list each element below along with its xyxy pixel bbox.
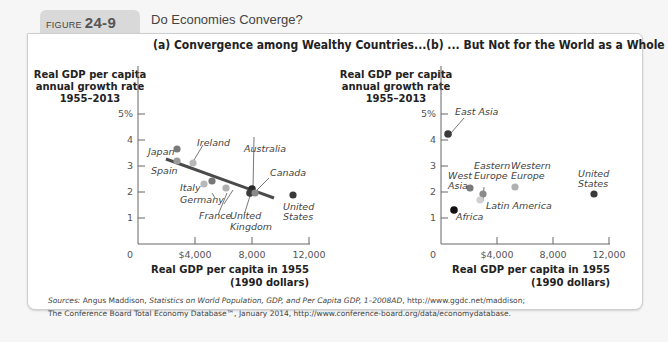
svg-text:Spain: Spain xyxy=(151,165,178,176)
svg-text:2: 2 xyxy=(127,186,133,197)
chart-a-title: (a) Convergence among Wealthy Countries.… xyxy=(153,38,426,52)
svg-text:France: France xyxy=(199,210,231,221)
chart-b-y-ticks xyxy=(441,114,448,218)
chart-b-xlabel: Real GDP per capita in 1955 (1990 dollar… xyxy=(452,264,610,288)
svg-text:1955–2013: 1955–2013 xyxy=(366,93,427,104)
svg-text:Ireland: Ireland xyxy=(197,137,231,148)
svg-text:Latin America: Latin America xyxy=(486,200,552,211)
point-western-europe xyxy=(511,183,518,190)
chart-a-xlabel: Real GDP per capita in 1955 (1990 dollar… xyxy=(151,264,309,288)
chart-a-x-tick-labels: 0 $4,000 8,000 12,000 xyxy=(127,249,326,260)
label-united-kingdom-1: United xyxy=(230,210,262,221)
svg-text:8,000: 8,000 xyxy=(539,249,566,260)
svg-text:12,000: 12,000 xyxy=(592,249,625,260)
svg-text:Italy: Italy xyxy=(180,182,201,193)
svg-text:Real GDP per capita: Real GDP per capita xyxy=(340,69,453,80)
svg-text:8,000: 8,000 xyxy=(238,249,265,260)
chart-b-point-labels: East Asia West Asia Eastern Europe Latin… xyxy=(447,106,610,222)
label-united-states-a-2: States xyxy=(283,211,313,222)
svg-text:Australia: Australia xyxy=(243,143,286,154)
point-ireland xyxy=(189,159,196,166)
chart-b-title: (b) ... But Not for the World as a Whole xyxy=(426,38,665,52)
svg-text:Real GDP per capita: Real GDP per capita xyxy=(34,69,147,80)
charts-canvas: (a) Convergence among Wealthy Countries.… xyxy=(0,0,668,342)
svg-text:(1990 dollars): (1990 dollars) xyxy=(531,277,610,288)
chart-b-x-ticks xyxy=(497,237,609,244)
label-eastern-europe-2: Europe xyxy=(474,170,508,181)
point-latin-america xyxy=(476,196,483,203)
chart-a-point-labels: Japan Spain Ireland Italy Germany France… xyxy=(146,137,315,232)
svg-text:(1990 dollars): (1990 dollars) xyxy=(230,277,309,288)
chart-b: (b) ... But Not for the World as a Whole… xyxy=(340,38,665,288)
label-west-asia-2: Asia xyxy=(447,180,468,191)
svg-text:5%: 5% xyxy=(118,108,133,119)
svg-text:annual growth rate: annual growth rate xyxy=(36,81,145,92)
chart-a-ylabel: Real GDP per capita annual growth rate 1… xyxy=(34,69,147,104)
svg-text:$4,000: $4,000 xyxy=(178,249,211,260)
point-canada xyxy=(251,189,258,196)
svg-text:East Asia: East Asia xyxy=(455,106,499,117)
svg-text:4: 4 xyxy=(127,134,133,145)
chart-b-ylabel: Real GDP per capita annual growth rate 1… xyxy=(340,69,453,104)
label-western-europe-2: Europe xyxy=(511,170,545,181)
svg-text:4: 4 xyxy=(430,134,436,145)
sources-line-1: Sources: Angus Maddison, Statistics on W… xyxy=(48,294,638,307)
svg-text:2: 2 xyxy=(430,186,436,197)
svg-text:12,000: 12,000 xyxy=(292,249,325,260)
svg-text:$4,000: $4,000 xyxy=(480,249,513,260)
point-united-states-a xyxy=(289,191,296,198)
sources-line-2: The Conference Board Total Economy Datab… xyxy=(48,307,638,320)
point-spain xyxy=(173,157,180,164)
point-italy xyxy=(200,180,207,187)
svg-text:Real GDP per capita in 1955: Real GDP per capita in 1955 xyxy=(151,264,309,275)
svg-text:1955–2013: 1955–2013 xyxy=(60,93,121,104)
point-germany xyxy=(208,177,215,184)
chart-a-y-tick-labels: 5% 4 3 2 1 xyxy=(118,108,133,223)
point-france xyxy=(222,184,229,191)
svg-text:Africa: Africa xyxy=(455,211,484,222)
svg-text:0: 0 xyxy=(430,249,436,260)
sources-note: Sources: Angus Maddison, Statistics on W… xyxy=(48,294,638,320)
svg-text:Real GDP per capita in 1955: Real GDP per capita in 1955 xyxy=(452,264,610,275)
svg-text:0: 0 xyxy=(127,249,133,260)
svg-text:Germany: Germany xyxy=(180,194,224,205)
svg-text:Japan: Japan xyxy=(146,146,175,157)
chart-b-y-tick-labels: 5% 4 3 2 1 xyxy=(421,108,436,223)
chart-a-x-ticks xyxy=(195,237,309,244)
chart-b-x-tick-labels: 0 $4,000 8,000 12,000 xyxy=(430,249,626,260)
svg-text:5%: 5% xyxy=(421,108,436,119)
svg-text:3: 3 xyxy=(430,160,436,171)
point-east-asia xyxy=(444,130,452,138)
point-united-states-b xyxy=(590,190,597,197)
svg-text:Canada: Canada xyxy=(270,167,306,178)
label-united-kingdom-2: Kingdom xyxy=(230,221,272,232)
chart-a-y-ticks xyxy=(138,114,145,218)
label-united-states-b-2: States xyxy=(578,178,608,189)
svg-text:annual growth rate: annual growth rate xyxy=(342,81,451,92)
svg-text:1: 1 xyxy=(127,212,133,223)
svg-text:1: 1 xyxy=(430,212,436,223)
svg-text:3: 3 xyxy=(127,160,133,171)
